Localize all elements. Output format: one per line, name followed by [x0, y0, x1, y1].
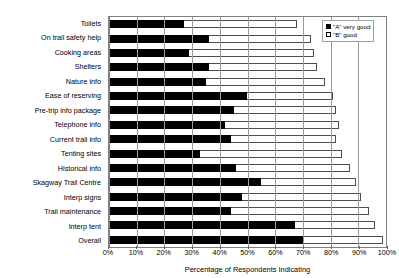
x-tick-label: 70%	[296, 249, 310, 256]
plot-area	[108, 16, 387, 248]
bar-segment-b	[231, 207, 369, 215]
legend-label-b: "B" good	[333, 31, 357, 39]
y-axis-label: Ease of reserving	[0, 89, 104, 104]
y-axis-label: Telephone info	[0, 118, 104, 133]
y-axis-category-labels: ToiletsOn trail safety helpCooking areas…	[0, 16, 104, 248]
bar-segment-a	[109, 35, 209, 43]
y-axis-label: Trail maintenance	[0, 205, 104, 220]
bar-segment-a	[109, 49, 189, 57]
bar-segment-b	[189, 49, 314, 57]
bar-segment-a	[109, 193, 242, 201]
bar-segment-b	[303, 236, 383, 244]
x-tick-label: 20%	[157, 249, 171, 256]
bar-segment-b	[247, 92, 333, 100]
bar-segment-b	[225, 121, 339, 129]
bar-segment-a	[109, 236, 303, 244]
y-axis-label: Skagway Trail Centre	[0, 176, 104, 191]
x-tick-label: 10%	[129, 249, 143, 256]
bar-row	[109, 46, 386, 60]
x-tick-label: 30%	[184, 249, 198, 256]
bar-row	[109, 60, 386, 74]
x-tick-label: 40%	[212, 249, 226, 256]
x-tick-label: 50%	[240, 249, 254, 256]
bar-row	[109, 146, 386, 160]
bar-segment-b	[184, 20, 298, 28]
bar-row	[109, 161, 386, 175]
y-axis-label: Tenting sites	[0, 147, 104, 162]
bar-segment-a	[109, 178, 261, 186]
bar-segment-b	[236, 164, 350, 172]
y-axis-label: Historical info	[0, 161, 104, 176]
bar-row	[109, 132, 386, 146]
x-axis: 0%10%20%30%40%50%60%70%80%90%100%	[108, 249, 387, 263]
bar-row	[109, 118, 386, 132]
y-axis-label: Cooking areas	[0, 45, 104, 60]
bar-segment-a	[109, 106, 234, 114]
y-axis-label: Current trail info	[0, 132, 104, 147]
bar-row	[109, 233, 386, 247]
bar-segment-a	[109, 135, 231, 143]
legend-item-b: "B" good	[326, 31, 370, 39]
bar-rows	[109, 17, 386, 247]
bar-segment-a	[109, 221, 295, 229]
bar-segment-b	[242, 193, 361, 201]
y-axis-label: Nature info	[0, 74, 104, 89]
y-axis-label: Toilets	[0, 16, 104, 31]
y-axis-label: Interp signs	[0, 190, 104, 205]
bar-segment-a	[109, 150, 200, 158]
x-tick-label: 90%	[352, 249, 366, 256]
bar-segment-b	[261, 178, 355, 186]
bar-segment-a	[109, 20, 184, 28]
legend-label-a: "A" very good	[333, 23, 370, 31]
white-square-icon	[326, 32, 331, 37]
legend-item-a: "A" very good	[326, 23, 370, 31]
black-square-icon	[326, 24, 331, 29]
bar-row	[109, 204, 386, 218]
bar-row	[109, 89, 386, 103]
bar-segment-b	[209, 63, 317, 71]
bar-row	[109, 103, 386, 117]
bar-segment-b	[209, 35, 311, 43]
bar-row	[109, 75, 386, 89]
bar-segment-a	[109, 121, 225, 129]
bar-segment-a	[109, 78, 206, 86]
bar-segment-b	[206, 78, 325, 86]
x-tick-label: 60%	[268, 249, 282, 256]
bar-row	[109, 218, 386, 232]
x-tick-label: 80%	[324, 249, 338, 256]
y-axis-label: On trail safety help	[0, 31, 104, 46]
bar-segment-a	[109, 63, 209, 71]
bar-segment-b	[295, 221, 375, 229]
y-axis-label: Overall	[0, 234, 104, 249]
bar-segment-a	[109, 164, 236, 172]
y-axis-label: Interp tent	[0, 219, 104, 234]
bar-segment-b	[231, 135, 336, 143]
x-tick-label: 0%	[103, 249, 113, 256]
bar-segment-a	[109, 92, 247, 100]
chart-legend: "A" very good "B" good	[322, 20, 374, 42]
bar-segment-b	[200, 150, 341, 158]
bar-segment-a	[109, 207, 231, 215]
y-axis-label: Shelters	[0, 60, 104, 75]
stacked-bar-chart: ToiletsOn trail safety helpCooking areas…	[0, 0, 399, 278]
x-axis-title: Percentage of Respondents Indicating	[108, 266, 387, 273]
bar-row	[109, 175, 386, 189]
x-tick-label: 100%	[378, 249, 396, 256]
bar-segment-b	[234, 106, 336, 114]
bar-row	[109, 190, 386, 204]
y-axis-label: Pre-trip info package	[0, 103, 104, 118]
gridline	[386, 17, 387, 247]
